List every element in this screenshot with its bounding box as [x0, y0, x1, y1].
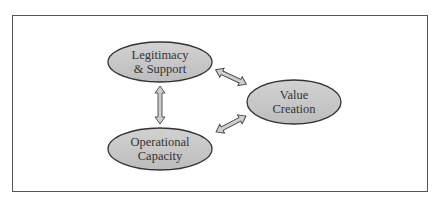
double-arrow-icon [155, 86, 165, 124]
legitimacy-line2: & Support [110, 62, 210, 76]
operational-line1: Operational [110, 135, 210, 149]
operational-line2: Capacity [110, 149, 210, 163]
value-line2: Creation [244, 102, 344, 116]
value-line1: Value [244, 88, 344, 102]
double-arrow-icon [213, 65, 248, 88]
legitimacy-line1: Legitimacy [110, 48, 210, 62]
legitimacy-label: Legitimacy & Support [110, 48, 210, 76]
value-label: Value Creation [244, 88, 344, 116]
diagram-canvas [0, 0, 441, 201]
operational-label: Operational Capacity [110, 135, 210, 163]
